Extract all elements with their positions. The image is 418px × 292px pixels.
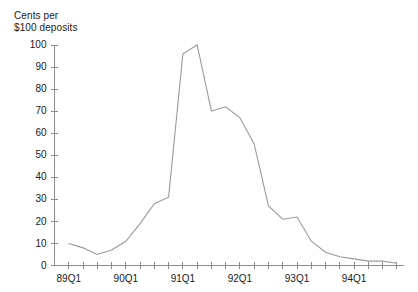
chart-figure: Cents per $100 deposits 0102030405060708… <box>0 0 418 292</box>
y-tick-label: 0 <box>41 260 47 271</box>
x-tick-label: 89Q1 <box>57 273 82 284</box>
x-tick-labels: 89Q190Q191Q192Q193Q194Q1 <box>57 273 367 284</box>
y-tick-label: 40 <box>35 171 47 182</box>
data-series-line <box>69 45 397 263</box>
y-tick-label: 30 <box>35 193 47 204</box>
y-tick-labels: 0102030405060708090100 <box>30 39 47 271</box>
x-tick-label: 93Q1 <box>285 273 310 284</box>
x-tick-label: 91Q1 <box>171 273 196 284</box>
x-axis-group: 89Q190Q191Q192Q193Q194Q1 <box>55 262 405 284</box>
y-tick-label: 20 <box>35 216 47 227</box>
y-tick-label: 90 <box>35 61 47 72</box>
x-tick-label: 90Q1 <box>114 273 139 284</box>
y-tick-label: 60 <box>35 127 47 138</box>
y-tick-label: 50 <box>35 149 47 160</box>
x-tick-label: 94Q1 <box>342 273 367 284</box>
y-tick-label: 80 <box>35 83 47 94</box>
x-tick-label: 92Q1 <box>228 273 253 284</box>
y-tick-label: 100 <box>30 39 47 50</box>
y-axis-group: 0102030405060708090100 <box>30 39 58 271</box>
y-tick-label: 10 <box>35 238 47 249</box>
y-tick-label: 70 <box>35 105 47 116</box>
line-chart-plot: 0102030405060708090100 89Q190Q191Q192Q19… <box>0 0 418 292</box>
